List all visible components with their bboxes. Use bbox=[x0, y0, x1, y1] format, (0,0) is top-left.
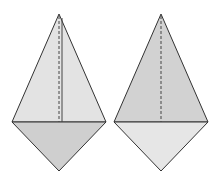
kites-diagram bbox=[0, 0, 221, 180]
right-kite bbox=[114, 14, 208, 171]
left-kite bbox=[12, 14, 106, 171]
left-lower-triangle bbox=[12, 122, 106, 171]
right-lower-triangle bbox=[114, 122, 208, 171]
